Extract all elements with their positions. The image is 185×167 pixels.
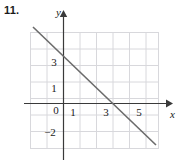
- y-axis-label: y: [56, 6, 61, 18]
- x-axis: [24, 100, 173, 108]
- x-tick-label-1: 1: [67, 106, 79, 118]
- graph-svg: [0, 0, 185, 167]
- x-axis-label: x: [170, 108, 175, 120]
- exercise-figure: 11.: [0, 0, 185, 167]
- x-tick-label-3: 3: [100, 106, 112, 118]
- coordinate-plane: [0, 0, 185, 167]
- y-tick-label-3: 3: [48, 56, 60, 68]
- y-tick-label-1: 1: [48, 82, 60, 94]
- x-tick-label-5: 5: [133, 106, 145, 118]
- x-tick-label-0: 0: [50, 104, 62, 116]
- y-tick-label-minus-2: −2: [40, 126, 60, 138]
